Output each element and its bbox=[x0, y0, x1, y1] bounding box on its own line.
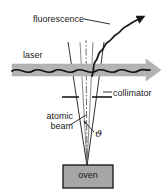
fluorescence-label: fluorescence bbox=[33, 14, 84, 24]
laser-label: laser bbox=[23, 50, 43, 60]
atomic-beam-label-line1: atomic bbox=[33, 111, 73, 121]
beam-inner-left bbox=[80, 42, 87, 166]
collimator-label: collimator bbox=[113, 88, 152, 98]
collimator-assembly bbox=[62, 92, 112, 97]
atomic-beam-label-line2: beam bbox=[33, 121, 73, 131]
beam-edge-left bbox=[68, 42, 87, 166]
oven-label: oven bbox=[63, 170, 113, 180]
fluorescence-leader-line bbox=[84, 19, 110, 24]
divergence-angle-label: ϑ bbox=[95, 129, 102, 139]
atomic-beam-figure: fluorescence laser collimator atomic bea… bbox=[0, 0, 168, 194]
atomic-beam-cone bbox=[68, 40, 104, 168]
